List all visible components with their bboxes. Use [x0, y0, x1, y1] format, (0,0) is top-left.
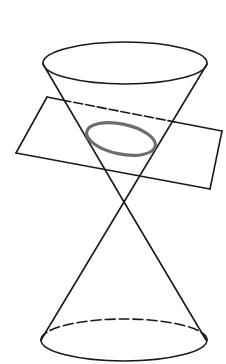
upper-cone-left-generator	[43, 64, 124, 202]
section-ellipse	[84, 117, 159, 161]
plane-top-edge-right	[175, 122, 222, 131]
upper-cone-rim	[43, 42, 207, 84]
lower-cone-base-hidden	[41, 319, 207, 340]
lower-cone-base-visible	[41, 340, 207, 361]
plane-left-edge	[16, 97, 47, 153]
plane-top-edge-left	[47, 97, 62, 100]
plane-right-edge	[210, 131, 222, 189]
plane-top-edge-hidden	[62, 100, 175, 122]
conic-section-diagram	[0, 0, 226, 364]
